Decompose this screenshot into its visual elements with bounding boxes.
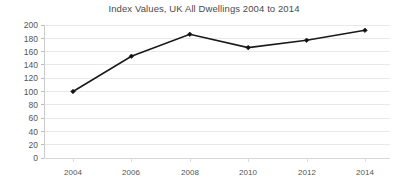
ytick-label-80: 80 <box>29 100 39 110</box>
ytick-label-140: 140 <box>24 60 38 70</box>
ytick-label-160: 160 <box>24 47 38 57</box>
ytick-label-180: 180 <box>24 34 38 44</box>
y-axis-tick-labels: 200 180 160 140 120 100 80 60 40 20 0 <box>24 20 38 163</box>
ytick-label-200: 200 <box>24 20 38 30</box>
chart-container: Index Values, UK All Dwellings 2004 to 2… <box>0 0 408 189</box>
ytick-label-20: 20 <box>29 140 39 150</box>
data-point-2010 <box>246 45 251 50</box>
data-point-2008 <box>188 32 193 37</box>
data-point-2014 <box>363 28 368 33</box>
ytick-label-100: 100 <box>24 87 38 97</box>
series-line <box>73 30 365 91</box>
xtick-label-2010: 2010 <box>239 168 257 177</box>
xtick-label-2008: 2008 <box>181 168 199 177</box>
ytick-label-0: 0 <box>33 153 38 163</box>
y-axis <box>41 25 44 158</box>
xtick-label-2004: 2004 <box>64 168 82 177</box>
x-axis <box>73 158 365 162</box>
xtick-label-2014: 2014 <box>356 168 374 177</box>
gridlines <box>44 25 390 158</box>
xtick-label-2012: 2012 <box>298 168 316 177</box>
ytick-label-60: 60 <box>29 113 39 123</box>
line-chart-plot: 200 180 160 140 120 100 80 60 40 20 0 20… <box>0 0 408 189</box>
ytick-label-40: 40 <box>29 127 39 137</box>
x-axis-tick-labels: 2004 2006 2008 2010 2012 2014 <box>64 168 374 177</box>
ytick-label-120: 120 <box>24 73 38 83</box>
xtick-label-2006: 2006 <box>122 168 140 177</box>
